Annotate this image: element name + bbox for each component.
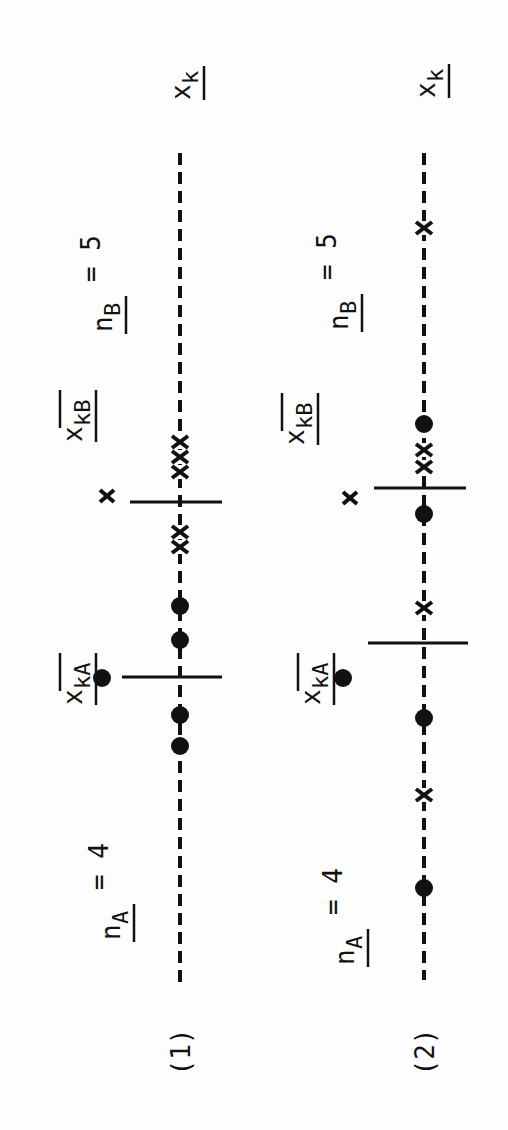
- group-b-point: [415, 788, 433, 802]
- svg-text:A: A: [342, 936, 367, 949]
- dot-plot-figure: (1) n A = 4 x kA x kB n: [0, 0, 508, 1130]
- figure-canvas: (1) n A = 4 x kA x kB n: [0, 0, 508, 1130]
- group-b-point: [415, 443, 433, 457]
- svg-text:kA: kA: [308, 663, 333, 690]
- svg-text:kB: kB: [292, 403, 317, 430]
- group-a-point: [171, 737, 189, 755]
- n-b-label-panel-1: n B = 5: [76, 235, 126, 334]
- svg-text:x: x: [166, 84, 196, 100]
- mean-b-label-panel-2: x kB: [280, 393, 318, 445]
- svg-text:= 4: = 4: [318, 868, 348, 915]
- group-b-point: [171, 525, 189, 539]
- svg-text:B: B: [100, 303, 125, 316]
- svg-text:(1): (1): [166, 1029, 196, 1076]
- axis-label-panel-1: x k: [166, 66, 204, 100]
- svg-text:B: B: [336, 301, 361, 314]
- panel-label-2: (2): [410, 1029, 440, 1076]
- group-a-point: [415, 415, 433, 433]
- legend-dot-icon: [334, 669, 352, 687]
- legend-cross-icon: [343, 492, 357, 504]
- svg-text:x: x: [296, 689, 326, 705]
- legend-cross-icon: [100, 490, 114, 502]
- mean-b-label-panel-1: x kB: [58, 390, 96, 442]
- group-b-point: [415, 460, 433, 474]
- mean-a-label-panel-2: x kA: [296, 653, 334, 705]
- svg-text:k: k: [178, 71, 203, 84]
- group-a-point: [171, 631, 189, 649]
- svg-text:x: x: [411, 82, 441, 98]
- panel-2: (2) n A = 4 x kA x kB n B: [280, 64, 468, 1075]
- svg-text:= 5: = 5: [312, 233, 342, 280]
- group-b-point: [171, 465, 189, 479]
- group-a-point: [415, 709, 433, 727]
- svg-text:n: n: [96, 924, 126, 940]
- axis-label-panel-2: x k: [411, 64, 449, 98]
- group-b-point: [171, 435, 189, 449]
- svg-text:(2): (2): [410, 1029, 440, 1076]
- svg-text:n: n: [324, 314, 354, 330]
- group-a-point: [415, 879, 433, 897]
- svg-text:kB: kB: [70, 400, 95, 427]
- svg-text:kA: kA: [70, 663, 95, 690]
- svg-text:= 5: = 5: [76, 235, 106, 282]
- group-b-point: [171, 450, 189, 464]
- panel-1: (1) n A = 4 x kA x kB n: [58, 66, 222, 1075]
- n-a-label-panel-2: n A = 4: [318, 868, 368, 967]
- group-a-point: [171, 706, 189, 724]
- group-b-point: [171, 540, 189, 554]
- group-a-point: [171, 597, 189, 615]
- group-b-point: [415, 221, 433, 235]
- svg-text:k: k: [423, 69, 448, 82]
- group-a-point: [415, 505, 433, 523]
- group-b-point: [415, 601, 433, 615]
- svg-text:x: x: [58, 426, 88, 442]
- svg-text:n: n: [330, 949, 360, 965]
- n-b-label-panel-2: n B = 5: [312, 233, 362, 332]
- svg-text:x: x: [280, 429, 310, 445]
- svg-text:= 4: = 4: [84, 843, 114, 890]
- mean-a-label-panel-1: x kA: [58, 653, 96, 705]
- n-a-label-panel-1: n A = 4: [84, 843, 134, 942]
- svg-text:n: n: [88, 316, 118, 332]
- panel-label-1: (1): [166, 1029, 196, 1076]
- svg-text:A: A: [108, 911, 133, 924]
- svg-text:x: x: [58, 689, 88, 705]
